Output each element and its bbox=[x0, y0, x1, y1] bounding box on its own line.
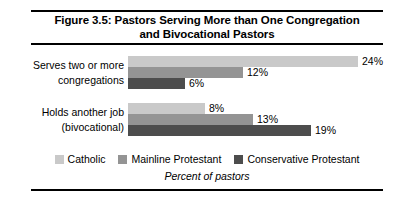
legend-item-mainline-protestant: Mainline Protestant bbox=[118, 153, 221, 165]
bar-value-catholic: 8% bbox=[209, 102, 224, 114]
bar-value-conservative-protestant: 19% bbox=[315, 124, 336, 136]
legend-swatch-conservative-protestant-icon bbox=[234, 155, 243, 164]
bar-catholic bbox=[128, 56, 358, 67]
figure-title-line-2: and Bivocational Pastors bbox=[31, 27, 383, 41]
bar-value-catholic: 24% bbox=[362, 55, 383, 67]
bar-mainline-protestant bbox=[128, 67, 243, 78]
bar-group-serves-two-or-more: Serves two or more congregations 24% 12%… bbox=[0, 56, 414, 91]
axis-caption: Percent of pastors bbox=[0, 170, 414, 182]
bottom-rule bbox=[31, 189, 383, 191]
bar-catholic bbox=[128, 103, 205, 114]
legend-label-catholic: Catholic bbox=[68, 153, 106, 165]
legend-swatch-catholic-icon bbox=[55, 155, 64, 164]
title-separator-rule bbox=[31, 43, 383, 45]
bar-conservative-protestant bbox=[128, 78, 185, 89]
bar-value-mainline-protestant: 12% bbox=[247, 66, 268, 78]
category-label-line-1: Serves two or more bbox=[6, 58, 124, 73]
top-rule bbox=[31, 10, 383, 12]
legend-label-conservative-protestant: Conservative Protestant bbox=[247, 153, 359, 165]
figure-title: Figure 3.5: Pastors Serving More than On… bbox=[31, 13, 383, 41]
legend-item-catholic: Catholic bbox=[55, 153, 106, 165]
bar-group-holds-another-job: Holds another job (bivocational) 8% 13% … bbox=[0, 103, 414, 138]
bar-value-mainline-protestant: 13% bbox=[257, 113, 278, 125]
bar-chart-plot-area: Serves two or more congregations 24% 12%… bbox=[0, 52, 414, 148]
bar-value-conservative-protestant: 6% bbox=[189, 77, 204, 89]
category-label-serves-two-or-more: Serves two or more congregations bbox=[6, 58, 124, 88]
category-label-line-2: congregations bbox=[6, 73, 124, 88]
category-label-line-1: Holds another job bbox=[6, 105, 124, 120]
legend-label-mainline-protestant: Mainline Protestant bbox=[131, 153, 221, 165]
bar-mainline-protestant bbox=[128, 114, 253, 125]
legend-item-conservative-protestant: Conservative Protestant bbox=[234, 153, 359, 165]
category-label-holds-another-job: Holds another job (bivocational) bbox=[6, 105, 124, 135]
figure-title-line-1: Figure 3.5: Pastors Serving More than On… bbox=[31, 13, 383, 27]
category-label-line-2: (bivocational) bbox=[6, 120, 124, 135]
chart-legend: Catholic Mainline Protestant Conservativ… bbox=[0, 153, 414, 165]
figure-container: Figure 3.5: Pastors Serving More than On… bbox=[0, 0, 414, 208]
bar-conservative-protestant bbox=[128, 125, 311, 136]
legend-swatch-mainline-protestant-icon bbox=[118, 155, 127, 164]
